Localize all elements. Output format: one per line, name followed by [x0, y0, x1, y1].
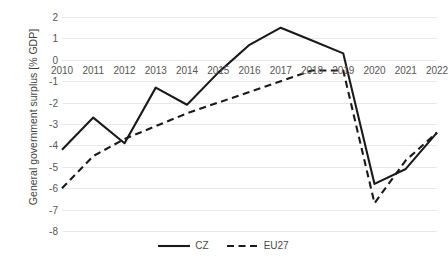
x-axis-tick-label: 2015 — [207, 65, 229, 76]
x-axis-tick-label: 2013 — [145, 65, 167, 76]
y-axis-tick-label: -1 — [32, 76, 58, 87]
y-axis-tick-label: -5 — [32, 161, 58, 172]
plot-area — [62, 17, 437, 231]
legend-label: CZ — [195, 240, 208, 251]
x-axis-tick-label: 2010 — [51, 65, 73, 76]
x-axis-tick-labels: 2010201120122013201420152016201720182019… — [62, 65, 437, 79]
gridline — [62, 231, 437, 232]
y-axis-tick-label: 0 — [32, 54, 58, 65]
y-axis-tick-label: -4 — [32, 140, 58, 151]
y-axis-tick-label: -2 — [32, 97, 58, 108]
x-axis-tick-label: 2022 — [426, 65, 448, 76]
legend-swatch-solid-icon — [158, 241, 190, 251]
y-axis-tick-label: -3 — [32, 119, 58, 130]
chart-legend: CZEU27 — [0, 240, 447, 251]
y-axis-tick-label: -6 — [32, 183, 58, 194]
legend-item-eu27[interactable]: EU27 — [227, 240, 289, 251]
x-axis-tick-label: 2014 — [176, 65, 198, 76]
legend-item-cz[interactable]: CZ — [158, 240, 208, 251]
y-axis-tick-label: 1 — [32, 33, 58, 44]
x-axis-tick-label: 2011 — [82, 65, 104, 76]
x-axis-tick-label: 2017 — [270, 65, 292, 76]
y-axis-tick-label: 2 — [32, 12, 58, 23]
x-axis-tick-label: 2012 — [113, 65, 135, 76]
x-axis-tick-label: 2021 — [395, 65, 417, 76]
legend-swatch-dashed-icon — [227, 241, 259, 251]
y-axis-tick-label: -8 — [32, 226, 58, 237]
x-axis-tick-label: 2018 — [301, 65, 323, 76]
legend-label: EU27 — [264, 240, 289, 251]
series-layer — [62, 17, 437, 231]
y-axis-tick-label: -7 — [32, 204, 58, 215]
x-axis-tick-label: 2020 — [363, 65, 385, 76]
x-axis-tick-label: 2019 — [332, 65, 354, 76]
x-axis-tick-label: 2016 — [238, 65, 260, 76]
y-axis-tick-labels: 210-1-2-3-4-5-6-7-8 — [28, 17, 58, 231]
series-line-cz — [62, 28, 437, 184]
